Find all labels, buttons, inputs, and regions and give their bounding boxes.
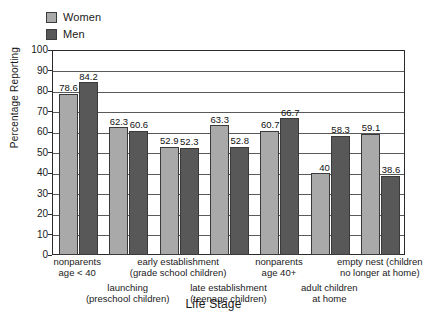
gridline xyxy=(53,194,404,195)
gridline xyxy=(53,112,404,113)
y-tick-label: 30 xyxy=(22,189,48,199)
plot-area xyxy=(52,50,405,255)
y-tick-label: 100 xyxy=(22,45,48,55)
x-label-line: adult children xyxy=(269,282,389,293)
gridline xyxy=(53,174,404,175)
x-axis-title-text: Life Stage xyxy=(185,297,241,311)
gridline xyxy=(53,92,404,93)
y-axis-ticks: 0102030405060708090100 xyxy=(0,50,48,255)
x-label-line: empty nest (children xyxy=(320,256,427,267)
y-tick-label: 10 xyxy=(22,230,48,240)
y-tick-label: 80 xyxy=(22,86,48,96)
legend-entry-women: Women xyxy=(46,9,166,26)
x-axis-label-6: empty nest (childrenno longer at home) xyxy=(320,256,427,278)
legend-entry-men: Men xyxy=(46,26,166,43)
gridline xyxy=(53,215,404,216)
legend-swatch-women-icon xyxy=(46,12,57,23)
y-tick-label: 50 xyxy=(22,148,48,158)
chart-legend: Women Men xyxy=(46,9,166,43)
y-tick-label: 40 xyxy=(22,168,48,178)
gridline xyxy=(53,133,404,134)
gridline xyxy=(53,235,404,236)
legend-swatch-men-icon xyxy=(46,29,57,40)
y-tick-label: 60 xyxy=(22,127,48,137)
x-axis-title: Life Stage xyxy=(0,297,427,311)
gridline xyxy=(53,153,404,154)
y-tick-label: 70 xyxy=(22,107,48,117)
x-label-line: no longer at home) xyxy=(320,267,427,278)
gridline xyxy=(53,71,404,72)
legend-label-women: Women xyxy=(63,12,101,23)
y-tick-label: 20 xyxy=(22,209,48,219)
y-tick-label: 90 xyxy=(22,66,48,76)
bar-chart: Women Men Percentage Reporting 010203040… xyxy=(0,0,427,322)
legend-label-men: Men xyxy=(63,29,85,40)
